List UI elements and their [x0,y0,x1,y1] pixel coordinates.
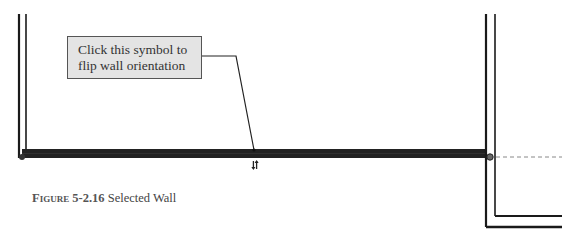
callout-box: Click this symbol to flip wall orientati… [67,36,202,79]
left-wall[interactable] [19,14,26,158]
callout-line-2: flip wall orientation [78,58,201,74]
right-wall[interactable] [486,14,562,227]
leader-endpoint-dot [252,148,255,151]
wall-endpoint-right-icon[interactable] [487,154,493,160]
callout-line-1: Click this symbol to [78,42,201,58]
flip-orientation-arrows-icon[interactable] [251,160,258,170]
callout-leader-line [202,56,254,150]
figure-caption: Figure 5-2.16 Selected Wall [32,191,176,206]
figure-label: Figure 5-2.16 [32,191,105,205]
wall-endpoint-left-icon[interactable] [19,154,25,160]
figure-title: Selected Wall [108,191,177,205]
